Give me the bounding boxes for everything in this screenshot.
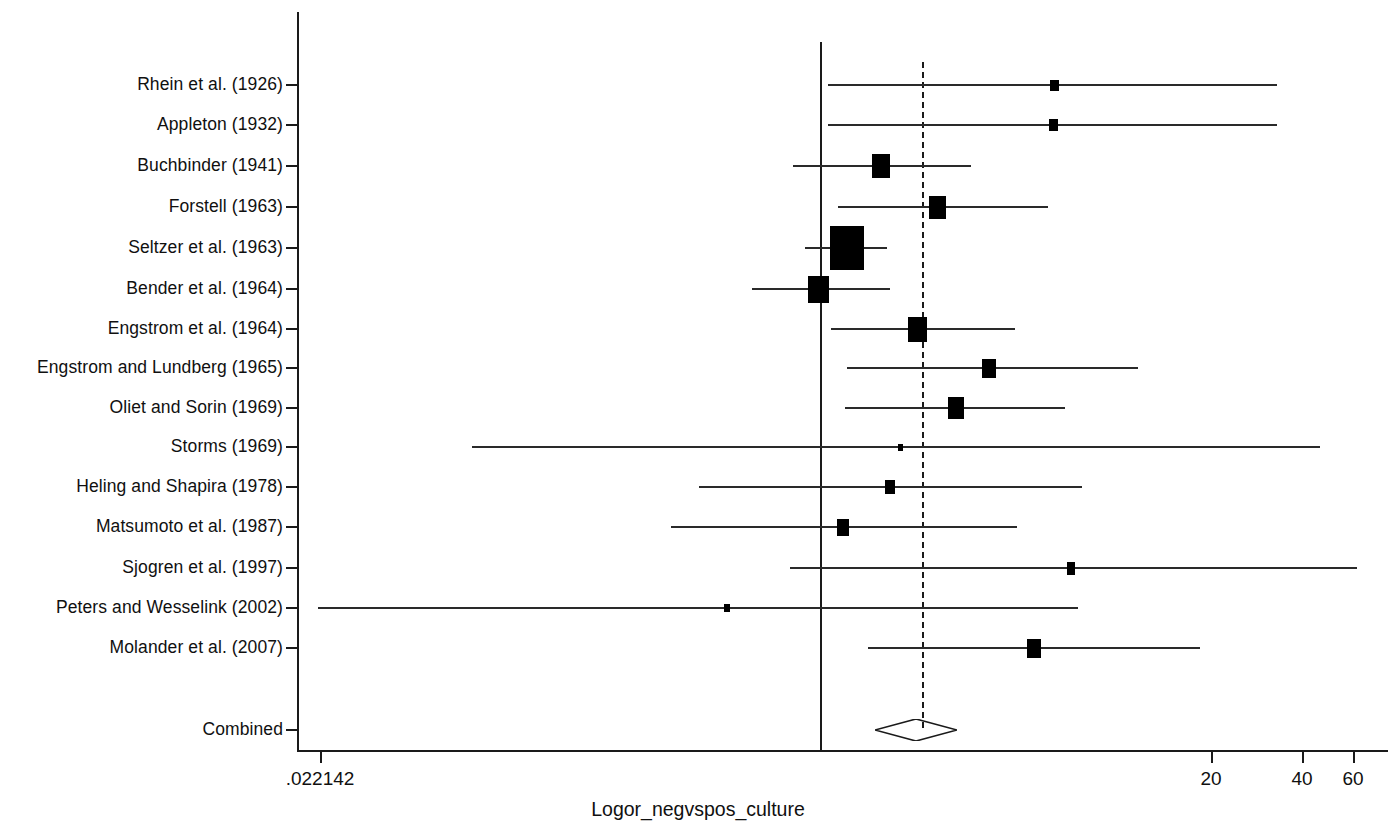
study-label: Engstrom et al. (1964)	[108, 320, 283, 338]
effect-size-box	[898, 444, 903, 451]
y-axis-tick	[286, 367, 297, 369]
y-axis-tick	[286, 647, 297, 649]
study-label: Rhein et al. (1926)	[137, 76, 283, 94]
y-axis-tick	[286, 486, 297, 488]
x-axis-tick	[1353, 750, 1355, 763]
study-label: Oliet and Sorin (1969)	[110, 399, 283, 417]
combined-diamond	[875, 719, 957, 741]
y-axis-tick	[286, 288, 297, 290]
y-axis-tick	[286, 165, 297, 167]
study-label: Peters and Wesselink (2002)	[56, 599, 283, 617]
effect-size-box	[830, 226, 864, 270]
pooled-effect-line	[922, 62, 924, 728]
x-axis-tick-label: 60	[1342, 768, 1363, 790]
effect-size-box	[982, 359, 996, 378]
y-axis-tick-combined	[286, 729, 297, 731]
study-label: Storms (1969)	[171, 438, 283, 456]
study-label: Seltzer et al. (1963)	[128, 239, 283, 257]
x-axis-tick-label: 40	[1291, 768, 1312, 790]
null-reference-line	[820, 42, 822, 750]
x-axis-tick	[320, 750, 322, 763]
y-axis-tick	[286, 407, 297, 409]
y-axis-tick	[286, 526, 297, 528]
y-axis-tick	[286, 446, 297, 448]
effect-size-box	[908, 317, 927, 342]
effect-size-box	[872, 154, 890, 178]
y-axis-tick	[286, 84, 297, 86]
effect-size-box	[929, 196, 946, 219]
y-axis-tick	[286, 567, 297, 569]
forest-plot-page: Rhein et al. (1926)Appleton (1932)Buchbi…	[0, 0, 1396, 833]
effect-size-box	[885, 480, 895, 494]
study-label: Buchbinder (1941)	[137, 157, 283, 175]
x-axis-spine	[297, 750, 1388, 752]
x-axis-tick	[1211, 750, 1213, 763]
effect-size-box	[948, 397, 964, 419]
y-axis-tick	[286, 206, 297, 208]
effect-size-box	[1049, 119, 1058, 131]
study-label: Bender et al. (1964)	[126, 280, 283, 298]
x-axis-title: Logor_negvspos_culture	[591, 798, 805, 821]
study-label: Molander et al. (2007)	[110, 639, 283, 657]
effect-size-box	[837, 519, 849, 536]
effect-size-box	[1027, 639, 1041, 658]
effect-size-box	[808, 276, 829, 303]
y-axis-tick	[286, 124, 297, 126]
x-axis-tick-label: 20	[1200, 768, 1221, 790]
y-axis-tick	[286, 247, 297, 249]
effect-size-box	[724, 604, 730, 612]
study-label: Sjogren et al. (1997)	[122, 559, 283, 577]
study-label: Appleton (1932)	[157, 116, 283, 134]
confidence-interval-line	[472, 446, 1320, 448]
y-axis-tick	[286, 328, 297, 330]
y-axis-spine	[297, 12, 299, 750]
y-axis-tick	[286, 607, 297, 609]
combined-label: Combined	[202, 721, 283, 739]
x-axis-tick	[1302, 750, 1304, 763]
effect-size-box	[1067, 562, 1075, 575]
study-label: Engstrom and Lundberg (1965)	[37, 359, 283, 377]
study-label: Matsumoto et al. (1987)	[96, 518, 283, 536]
study-label: Forstell (1963)	[169, 198, 283, 216]
effect-size-box	[1050, 80, 1059, 91]
x-axis-tick-label: .022142	[286, 768, 355, 790]
study-label: Heling and Shapira (1978)	[76, 478, 283, 496]
confidence-interval-line	[318, 607, 1078, 609]
